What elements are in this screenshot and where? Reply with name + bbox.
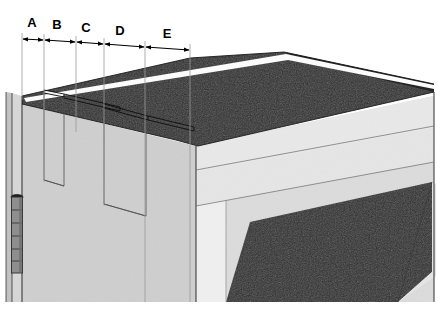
door-hinge xyxy=(11,194,23,273)
dim-arrow-E xyxy=(146,47,189,50)
dim-arrow-D xyxy=(105,44,144,47)
dimension-label-A: A xyxy=(27,15,37,30)
dim-arrow-A xyxy=(23,39,43,40)
dimension-label-D: D xyxy=(115,23,124,38)
dim-arrow-B xyxy=(45,40,75,42)
technical-drawing: A B C D E xyxy=(0,0,437,314)
dimension-label-C: C xyxy=(81,20,91,35)
dim-arrow-C xyxy=(77,42,103,44)
dimension-label-B: B xyxy=(52,17,61,32)
dimension-label-E: E xyxy=(163,26,172,41)
diagram-canvas: A B C D E xyxy=(0,0,437,314)
hinge-shade xyxy=(19,198,22,272)
step-left-pale-strip xyxy=(196,200,226,302)
dimension-labels: A B C D E xyxy=(27,15,171,41)
